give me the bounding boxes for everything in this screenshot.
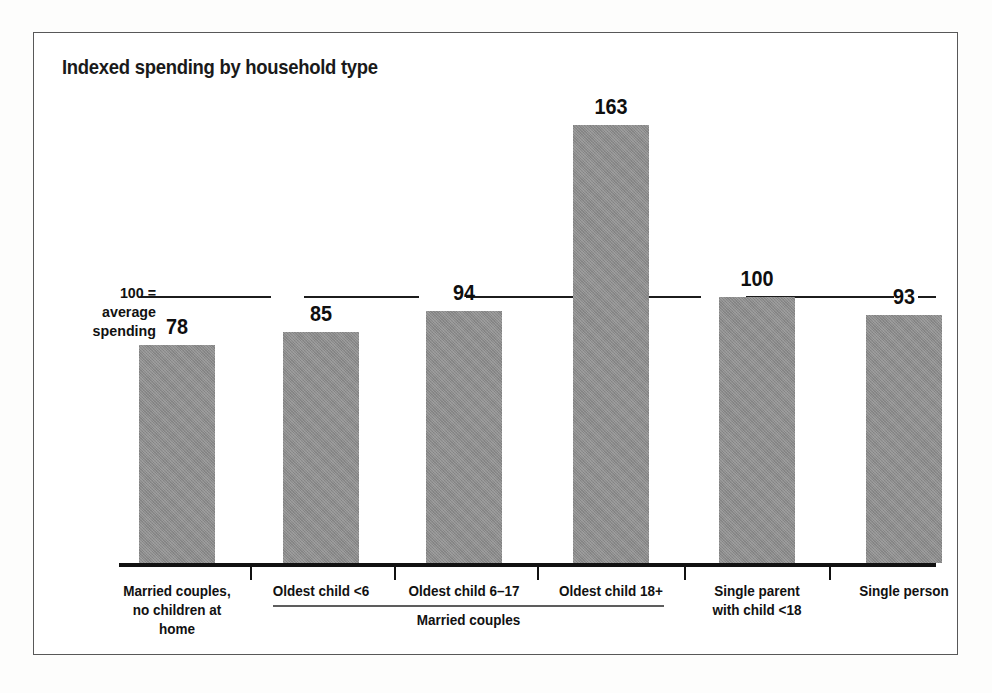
category-label-1-line1: Married couples, [114, 581, 240, 600]
category-label-2: Oldest child <6 [263, 581, 380, 600]
reference-label-line1: 100 = [64, 283, 156, 302]
category-label-1-line2: no children at home [114, 600, 240, 638]
group-bracket-line [273, 605, 664, 607]
category-label-5-line1: Single parent [699, 581, 816, 600]
bar-value-label-4: 163 [577, 94, 645, 120]
category-label-6: Single person [846, 581, 963, 600]
bar-value-label-2: 85 [287, 301, 355, 327]
bar-value-label-5: 100 [723, 266, 791, 292]
figure-frame: Indexed spending by household type 100 =… [33, 32, 958, 655]
category-label-2-line1: Oldest child <6 [263, 581, 380, 600]
bar-single-person [866, 315, 942, 563]
bar-oldest-child-6-17 [426, 311, 502, 563]
category-label-5-line2: with child <18 [699, 600, 816, 619]
group-bracket-label: Married couples [293, 611, 645, 628]
axis-tick-1 [250, 566, 252, 580]
category-label-1: Married couples, no children at home [114, 581, 240, 638]
bar-oldest-child-under-6 [283, 332, 359, 563]
category-label-5: Single parent with child <18 [699, 581, 816, 619]
category-label-3-line1: Oldest child 6–17 [406, 581, 523, 600]
chart-plot-area: 100 = average spending 78 85 94 163 100 … [34, 33, 959, 656]
bar-value-label-3: 94 [430, 280, 498, 306]
bar-oldest-child-18-plus [573, 125, 649, 563]
category-label-4: Oldest child 18+ [553, 581, 670, 600]
x-axis-baseline [119, 563, 936, 567]
reference-line-segment-2 [304, 296, 419, 298]
category-label-6-line1: Single person [846, 581, 963, 600]
category-label-3: Oldest child 6–17 [406, 581, 523, 600]
reference-line-segment-1 [141, 296, 271, 298]
bar-value-label-6: 93 [870, 284, 938, 310]
axis-tick-3 [537, 566, 539, 580]
bar-single-parent-child-under-18 [719, 297, 795, 563]
bar-value-label-1: 78 [143, 314, 211, 340]
axis-tick-2 [394, 566, 396, 580]
page-canvas: Indexed spending by household type 100 =… [0, 0, 992, 693]
axis-tick-4 [684, 566, 686, 580]
category-label-4-line1: Oldest child 18+ [553, 581, 670, 600]
bar-married-no-children [139, 345, 215, 563]
axis-tick-5 [829, 566, 831, 580]
